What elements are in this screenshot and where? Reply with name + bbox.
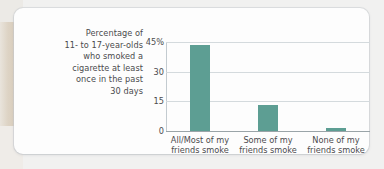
- caption-line: 11- to 17-year-olds: [32, 40, 143, 52]
- x-axis-category-label-line: friends smoke: [234, 145, 302, 155]
- bar[interactable]: [258, 105, 278, 131]
- bar[interactable]: [190, 45, 210, 131]
- bar[interactable]: [326, 128, 346, 131]
- chart-caption: Percentage of11- to 17-year-oldswho smok…: [32, 28, 143, 98]
- caption-line: cigarette at least: [32, 63, 143, 75]
- caption-line: who smoked a: [32, 51, 143, 63]
- page-background: Percentage of11- to 17-year-oldswho smok…: [0, 0, 384, 169]
- x-axis-category-label: All/Most of myfriends smoke: [166, 135, 234, 156]
- caption-line: Percentage of: [32, 28, 143, 40]
- x-axis-category-label-line: friends smoke: [166, 145, 234, 155]
- x-axis-labels: All/Most of myfriends smokeSome of myfri…: [166, 135, 370, 161]
- x-axis-category-label: None of myfriends smoke: [302, 135, 370, 156]
- x-axis-category-label-line: friends smoke: [302, 145, 370, 155]
- bar-chart: All/Most of myfriends smokeSome of myfri…: [142, 30, 370, 152]
- y-axis-tick-label: 15: [142, 96, 164, 106]
- x-axis-category-label: Some of myfriends smoke: [234, 135, 302, 156]
- x-axis-category-label-line: All/Most of my: [166, 135, 234, 145]
- y-axis-tick-label: 30: [142, 67, 164, 77]
- caption-line: 30 days: [32, 86, 143, 98]
- bar-slot: [302, 42, 370, 131]
- y-axis-tick-label: 0: [142, 126, 164, 136]
- plot-area: [166, 42, 370, 131]
- x-axis-category-label-line: None of my: [302, 135, 370, 145]
- x-axis-category-label-line: Some of my: [234, 135, 302, 145]
- chart-card: Percentage of11- to 17-year-oldswho smok…: [14, 8, 369, 154]
- bar-slot: [234, 42, 302, 131]
- caption-line: once in the past: [32, 74, 143, 86]
- y-axis-tick-label: 45%: [142, 37, 164, 47]
- bar-slot: [166, 42, 234, 131]
